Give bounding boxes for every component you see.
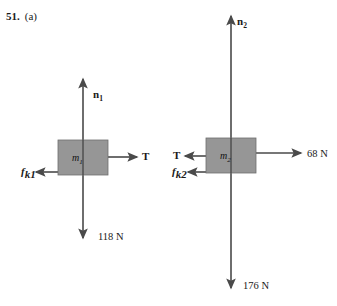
kinetic-friction-force-label-m2: fk2 xyxy=(172,165,187,180)
free-body-diagram-m2: n2 176 N 68 N T fk2 m2 xyxy=(172,15,328,291)
free-body-diagram-m1: n1 118 N T fk1 m1 xyxy=(21,79,150,242)
tension-force-label-m2: T xyxy=(173,149,181,161)
normal-force-label-m2: n2 xyxy=(237,15,247,30)
figure-canvas: 51.(a) n1 118 N T fk1 m1 xyxy=(0,0,337,306)
tension-force-label-m1: T xyxy=(142,150,150,162)
applied-force-value-m2: 68 N xyxy=(307,148,328,159)
free-body-diagrams-svg: n1 118 N T fk1 m1 n2 176 N 68 xyxy=(0,0,337,306)
weight-force-value-m2: 176 N xyxy=(243,280,269,291)
kinetic-friction-force-label-m1: fk1 xyxy=(21,165,36,180)
weight-force-value-m1: 118 N xyxy=(98,231,124,242)
normal-force-label-m1: n1 xyxy=(93,88,103,103)
